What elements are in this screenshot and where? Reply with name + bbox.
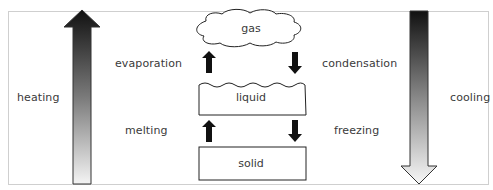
cooling-label: cooling bbox=[450, 91, 490, 104]
condensation-arrow-icon bbox=[288, 52, 302, 74]
condensation-label: condensation bbox=[322, 57, 397, 70]
freezing-label: freezing bbox=[334, 124, 379, 137]
solid-label: solid bbox=[226, 157, 276, 170]
evaporation-arrow-icon bbox=[202, 51, 216, 73]
gas-label: gas bbox=[226, 22, 276, 35]
liquid-label: liquid bbox=[226, 91, 276, 104]
melting-label: melting bbox=[125, 124, 168, 137]
heating-arrow-icon bbox=[64, 10, 100, 184]
freezing-arrow-icon bbox=[288, 120, 302, 142]
melting-arrow-icon bbox=[202, 120, 216, 142]
evaporation-label: evaporation bbox=[115, 57, 182, 70]
cooling-arrow-icon bbox=[401, 11, 437, 184]
heating-label: heating bbox=[17, 91, 60, 104]
